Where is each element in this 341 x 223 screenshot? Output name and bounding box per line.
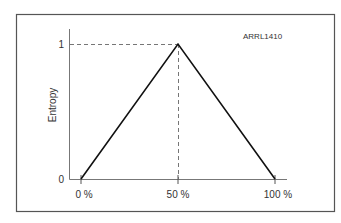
chart-figure: 1 0 0 % 50 % 100 % Entropy ARRL1410 (0, 0, 341, 223)
figure-id: ARRL1410 (243, 32, 283, 41)
y-tick-label-1: 1 (58, 39, 64, 50)
x-tick-label-50: 50 % (167, 189, 190, 200)
y-tick-label-0: 0 (58, 174, 64, 185)
x-tick-label-0: 0 % (75, 189, 92, 200)
entropy-line (81, 44, 275, 179)
x-tick-label-100: 100 % (264, 189, 292, 200)
y-axis-label: Entropy (47, 88, 58, 122)
